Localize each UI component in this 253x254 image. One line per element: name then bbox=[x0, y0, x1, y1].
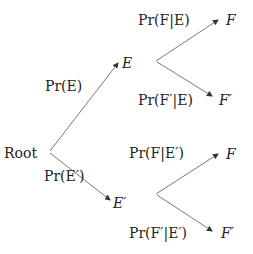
node-f-from-e: F bbox=[226, 13, 236, 27]
node-e-prime: E′ bbox=[113, 196, 126, 210]
edge-label-pr-e: Pr(E) bbox=[45, 79, 82, 93]
edge-label-pr-f-given-e: Pr(F|E) bbox=[138, 13, 190, 27]
edge-label-pr-f-prime-given-e-prime: Pr(F′|E′) bbox=[129, 226, 187, 240]
edge-label-pr-f-given-e-prime: Pr(F|E′) bbox=[129, 146, 184, 160]
node-e: E bbox=[122, 56, 132, 70]
node-f-prime-from-e-prime: F′ bbox=[221, 226, 234, 240]
node-f-prime-from-e: F′ bbox=[219, 93, 232, 107]
probability-tree-diagram: Root E E′ F F′ F F′ Pr(E) Pr(E′) Pr(F|E)… bbox=[0, 0, 253, 254]
edge-label-pr-f-prime-given-e: Pr(F′|E) bbox=[138, 93, 193, 107]
edge-label-pr-e-prime: Pr(E′) bbox=[44, 169, 84, 183]
edge-e-to-f-prime bbox=[157, 62, 212, 96]
node-root: Root bbox=[4, 146, 37, 160]
node-f-from-e-prime: F bbox=[226, 147, 236, 161]
edge-root-to-e bbox=[50, 63, 118, 151]
tree-edges bbox=[0, 0, 253, 254]
